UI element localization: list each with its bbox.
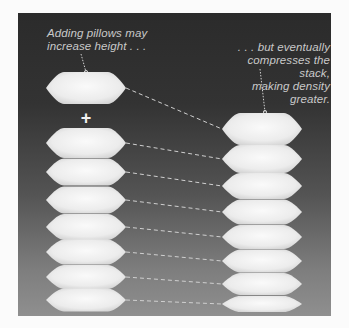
left-stack-pillow xyxy=(46,214,126,240)
left-stack-pillow xyxy=(46,128,126,158)
caption-right-line-3: making density greater. xyxy=(218,80,330,106)
dashed-connectors xyxy=(126,88,222,304)
right-stack-pillow xyxy=(222,173,302,199)
dashed-connector-line xyxy=(126,200,222,212)
plus-icon: + xyxy=(81,108,92,128)
dashed-connector-line xyxy=(126,277,222,284)
dashed-connector-line xyxy=(126,143,222,159)
right-stack-pillow xyxy=(222,113,302,145)
left-stack-pillow xyxy=(46,240,126,265)
dashed-connector-line xyxy=(126,300,222,304)
right-stack-pillow xyxy=(222,273,302,295)
dashed-connector-line xyxy=(126,227,222,237)
caption-left-line-1: Adding pillows may xyxy=(47,27,147,40)
right-stack-pillow xyxy=(222,250,302,273)
dashed-connector-line xyxy=(126,88,222,129)
caption-right-line-2: compresses the stack, xyxy=(218,54,330,80)
right-stack-pillow xyxy=(222,296,302,312)
left-stack-pillow xyxy=(46,289,126,312)
left-stack-pillow xyxy=(46,159,126,186)
caption-adding-pillows: Adding pillows may increase height . . . xyxy=(47,27,147,53)
right-stack-pillow xyxy=(222,225,302,249)
dashed-connector-line xyxy=(81,54,86,72)
left-stack-pillow xyxy=(46,187,126,214)
dashed-connector-line xyxy=(126,252,222,261)
right-stack-pillow xyxy=(222,145,302,173)
caption-left-line-2: increase height . . . xyxy=(47,40,147,53)
right-stack-pillow xyxy=(222,200,302,225)
dashed-connector-line xyxy=(126,172,222,186)
added-pillow xyxy=(46,72,126,104)
left-stack-pillow xyxy=(46,265,126,289)
caption-compresses-stack: . . . but eventually compresses the stac… xyxy=(218,41,330,106)
caption-right-line-1: . . . but eventually xyxy=(218,41,330,54)
